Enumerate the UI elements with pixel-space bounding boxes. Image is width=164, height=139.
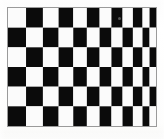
checker-cell-5-12 <box>150 87 156 107</box>
checker-cell-3-7 <box>100 47 112 67</box>
checker-cell-3-11 <box>143 47 150 67</box>
checker-cell-2-10 <box>133 28 143 48</box>
checker-cell-1-7 <box>100 8 112 28</box>
checker-cell-3-12 <box>150 47 156 67</box>
checker-cell-1-12 <box>150 8 156 28</box>
checker-cell-1-2 <box>26 8 43 28</box>
checker-cell-2-2 <box>26 28 43 48</box>
checker-cell-3-8 <box>111 47 122 67</box>
checker-cell-4-10 <box>133 67 143 87</box>
checker-cell-2-12 <box>150 28 156 48</box>
checker-cell-6-9 <box>123 106 133 126</box>
checker-cell-6-11 <box>143 106 150 126</box>
checker-cell-4-5 <box>73 67 87 87</box>
checker-cell-5-9 <box>123 87 133 107</box>
checker-cell-5-6 <box>87 87 100 107</box>
checker-cell-2-4 <box>59 28 74 48</box>
checker-cell-3-5 <box>73 47 87 67</box>
checker-cell-6-5 <box>73 106 87 126</box>
checker-cell-6-4 <box>59 106 74 126</box>
checker-cell-5-8 <box>111 87 122 107</box>
checker-cell-3-10 <box>133 47 143 67</box>
checker-cell-4-2 <box>26 67 43 87</box>
checkerboard-frame <box>7 7 157 127</box>
checker-cell-3-4 <box>59 47 74 67</box>
checker-cell-2-8 <box>111 28 122 48</box>
checker-cell-4-12 <box>150 67 156 87</box>
checker-cell-3-3 <box>43 47 59 67</box>
checker-cell-5-11 <box>143 87 150 107</box>
checker-cell-5-7 <box>100 87 112 107</box>
checker-cell-2-5 <box>73 28 87 48</box>
checker-cell-2-6 <box>87 28 100 48</box>
checker-cell-2-1 <box>8 28 26 48</box>
checker-cell-1-1 <box>8 8 26 28</box>
checker-cell-6-12 <box>150 106 156 126</box>
checker-cell-4-3 <box>43 67 59 87</box>
checker-cell-5-10 <box>133 87 143 107</box>
checker-cell-2-11 <box>143 28 150 48</box>
checker-cell-4-6 <box>87 67 100 87</box>
checker-cell-4-8 <box>111 67 122 87</box>
checker-cell-2-3 <box>43 28 59 48</box>
checker-cell-5-5 <box>73 87 87 107</box>
checker-cell-3-6 <box>87 47 100 67</box>
checker-cell-4-11 <box>143 67 150 87</box>
checker-cell-1-11 <box>143 8 150 28</box>
checker-cell-5-4 <box>59 87 74 107</box>
checker-cell-4-4 <box>59 67 74 87</box>
checker-cell-1-3 <box>43 8 59 28</box>
checker-cell-6-2 <box>26 106 43 126</box>
checker-cell-1-4 <box>59 8 74 28</box>
checker-cell-6-1 <box>8 106 26 126</box>
image-canvas <box>0 0 164 139</box>
checker-cell-1-9 <box>123 8 133 28</box>
checker-cell-6-3 <box>43 106 59 126</box>
checker-cell-4-9 <box>123 67 133 87</box>
checker-cell-6-7 <box>100 106 112 126</box>
checker-cell-3-9 <box>123 47 133 67</box>
checker-cell-1-6 <box>87 8 100 28</box>
checker-cell-3-2 <box>26 47 43 67</box>
checker-cell-4-7 <box>100 67 112 87</box>
checkerboard-grid <box>8 8 156 126</box>
checker-cell-6-10 <box>133 106 143 126</box>
checker-cell-5-2 <box>26 87 43 107</box>
scan-speck-artifact <box>118 17 121 20</box>
checker-cell-6-8 <box>111 106 122 126</box>
checker-cell-4-1 <box>8 67 26 87</box>
checker-cell-6-6 <box>87 106 100 126</box>
checker-cell-5-3 <box>43 87 59 107</box>
checker-cell-2-9 <box>123 28 133 48</box>
checker-cell-3-1 <box>8 47 26 67</box>
checker-cell-2-7 <box>100 28 112 48</box>
checker-cell-1-10 <box>133 8 143 28</box>
checker-cell-1-5 <box>73 8 87 28</box>
checker-cell-5-1 <box>8 87 26 107</box>
